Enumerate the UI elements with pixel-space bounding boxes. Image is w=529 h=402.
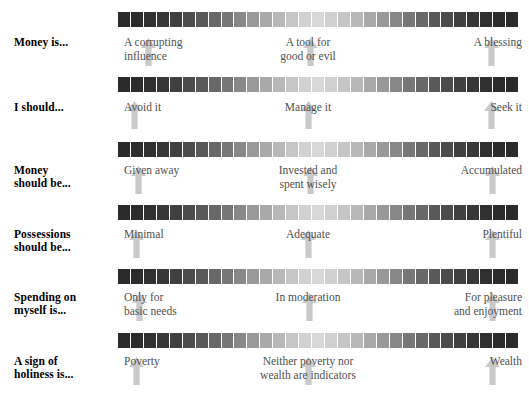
bar-segment (506, 333, 518, 348)
bar-segment (467, 205, 479, 220)
bar-segment (480, 333, 492, 348)
bar-segment (429, 333, 441, 348)
bar-segment (429, 12, 441, 27)
scale-point-right: For pleasure and enjoyment (378, 291, 522, 318)
bar-segment (286, 77, 298, 92)
bar-segment (286, 269, 298, 284)
bar-segment (299, 333, 311, 348)
bar-segment (131, 12, 143, 27)
bar-segment (454, 12, 466, 27)
bar-segment (118, 269, 130, 284)
bar-segment (403, 12, 415, 27)
bar-segment (325, 12, 337, 27)
bar-segment (144, 12, 156, 27)
bar-segment (377, 269, 389, 284)
bar-segment (234, 77, 246, 92)
bar-segment (273, 12, 285, 27)
bar-segment (222, 142, 234, 157)
bar-segment (234, 205, 246, 220)
scale-point-mid: Neither poverty nor wealth are indicator… (218, 355, 398, 382)
bar-segment (416, 77, 428, 92)
bar-segment (364, 142, 376, 157)
bar-segment (131, 142, 143, 157)
bar-segment (364, 269, 376, 284)
bar-segment (403, 205, 415, 220)
bar-segment (157, 12, 169, 27)
bar-segment (312, 269, 324, 284)
bar-segment (480, 12, 492, 27)
bar-segment (416, 269, 428, 284)
bar-segment (325, 205, 337, 220)
bar-segment (131, 77, 143, 92)
bar-segment (222, 12, 234, 27)
bar-segment (118, 77, 130, 92)
bar-segment (338, 333, 350, 348)
bar-segment (131, 205, 143, 220)
bar-segment (234, 12, 246, 27)
bar-segment (441, 269, 453, 284)
bar-segment (183, 142, 195, 157)
bar-segment (170, 142, 182, 157)
bar-segment (429, 205, 441, 220)
bar-segment (183, 333, 195, 348)
bar-segment (196, 77, 208, 92)
bar-segment (351, 142, 363, 157)
bar-segment (506, 142, 518, 157)
bar-segment (377, 12, 389, 27)
bar-segment (209, 12, 221, 27)
bar-segment (351, 269, 363, 284)
bar-segment (454, 77, 466, 92)
bar-segment (416, 333, 428, 348)
bar-segment (273, 205, 285, 220)
bar-segment (441, 12, 453, 27)
bar-segment (338, 142, 350, 157)
bar-segment (286, 333, 298, 348)
bar-segment (157, 142, 169, 157)
bar-segment (273, 77, 285, 92)
bar-segment (196, 12, 208, 27)
bar-segment (416, 205, 428, 220)
bar-segment (299, 269, 311, 284)
bar-segment (312, 205, 324, 220)
bar-segment (286, 12, 298, 27)
bar-segment (338, 269, 350, 284)
bar-segment (493, 12, 505, 27)
bar-segment (260, 205, 272, 220)
bar-segment (157, 77, 169, 92)
bar-segment (312, 12, 324, 27)
bar-segment (247, 12, 259, 27)
bar-segment (403, 142, 415, 157)
bar-segment (454, 333, 466, 348)
bar-segment (209, 142, 221, 157)
row-stub-label: Possessions should be... (14, 228, 118, 254)
bar-segment (377, 333, 389, 348)
bar-segment (325, 142, 337, 157)
gradient-bar (118, 333, 518, 348)
bar-segment (325, 77, 337, 92)
bar-segment (209, 333, 221, 348)
bar-segment (170, 333, 182, 348)
scale-point-right: Plentiful (378, 228, 522, 242)
bar-segment (416, 142, 428, 157)
bar-segment (390, 12, 402, 27)
bar-segment (209, 77, 221, 92)
gradient-bar (118, 205, 518, 220)
scale-point-right: A blessing (378, 36, 522, 50)
bar-segment (467, 77, 479, 92)
bar-segment (480, 142, 492, 157)
bar-segment (260, 142, 272, 157)
bar-segment (377, 77, 389, 92)
bar-segment (209, 205, 221, 220)
bar-segment (338, 12, 350, 27)
gradient-bar (118, 12, 518, 27)
bar-segment (493, 77, 505, 92)
row-stub-label: I should... (14, 101, 118, 114)
bar-segment (506, 77, 518, 92)
bar-segment (260, 12, 272, 27)
bar-segment (338, 77, 350, 92)
scale-point-mid: Manage it (218, 101, 398, 115)
bar-segment (183, 77, 195, 92)
scale-point-mid: A tool for good or evil (218, 36, 398, 63)
bar-segment (196, 142, 208, 157)
bar-segment (493, 142, 505, 157)
